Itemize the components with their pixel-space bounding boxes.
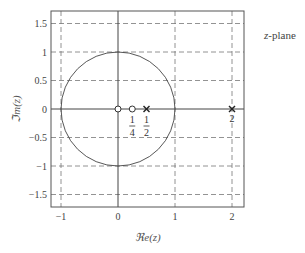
z-plane-annotation: z-plane: [264, 29, 296, 41]
point-labels: 14122: [129, 113, 234, 138]
x-tick-label: 0: [116, 211, 121, 222]
x-tick-label: 2: [230, 211, 235, 222]
fraction-denominator: 2: [144, 127, 149, 138]
zero-marker: [115, 106, 121, 112]
zero-marker: [129, 106, 135, 112]
y-tick-label: −0.5: [29, 132, 47, 143]
y-tick-label: 1.5: [35, 18, 48, 29]
y-tick-label: 0.5: [35, 75, 48, 86]
y-tick-label: 1: [42, 47, 47, 58]
x-tick-label: −1: [56, 211, 67, 222]
fraction-numerator: 1: [130, 114, 135, 125]
plane-suffix: -plane: [268, 29, 295, 41]
x-tick-label: 1: [173, 211, 178, 222]
fraction-numerator: 1: [144, 114, 149, 125]
axes: [51, 11, 244, 207]
y-axis-label: ℑm(z): [10, 95, 23, 123]
y-tick-label: 0: [42, 104, 47, 115]
pole-label: 2: [230, 113, 235, 124]
pole-zero-plot: −10121.510.50−0.5−1−1.5 14122 ℜe(z) ℑm(z…: [0, 0, 305, 253]
x-axis-label: ℜe(z): [135, 231, 161, 244]
y-tick-label: −1: [36, 161, 47, 172]
fraction-denominator: 4: [130, 127, 135, 138]
y-tick-label: −1.5: [29, 189, 47, 200]
